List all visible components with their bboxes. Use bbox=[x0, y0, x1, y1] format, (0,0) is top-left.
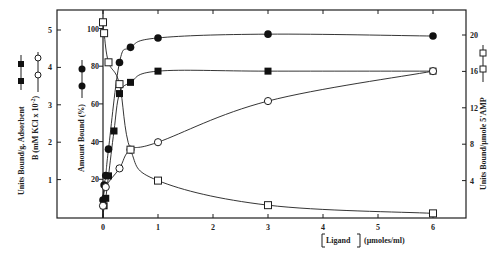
open-circle-marker bbox=[99, 202, 106, 209]
open-square-marker bbox=[430, 210, 437, 217]
legend-filled-circle-icon bbox=[79, 83, 86, 90]
x-axis-title-ligand: Ligand bbox=[326, 236, 351, 245]
legend-filled-square-icon bbox=[18, 61, 24, 67]
filled-circle-marker bbox=[264, 30, 272, 38]
right-tick-label: 12 bbox=[470, 104, 478, 113]
legend-open-square-icon bbox=[480, 50, 486, 56]
right-tick-label: 8 bbox=[470, 140, 474, 149]
inner-tick-label: 40 bbox=[91, 138, 99, 147]
open-square-marker bbox=[116, 81, 123, 88]
filled-circle-marker bbox=[127, 44, 135, 52]
curve-filled-circle bbox=[103, 34, 433, 218]
axis-titles: Units Bound/g. AdsorbentB (mM KCl x 10-2… bbox=[17, 45, 488, 247]
open-circle-marker bbox=[116, 165, 123, 172]
filled-square-marker bbox=[111, 127, 118, 134]
open-circle-marker bbox=[264, 97, 271, 104]
legend-filled-square-icon bbox=[18, 78, 24, 84]
x-tick-label: 4 bbox=[321, 223, 325, 232]
ligand-binding-chart: 0123456123452040608010048121620 Units Bo… bbox=[0, 0, 491, 259]
filled-square-marker bbox=[105, 172, 112, 179]
filled-square-marker bbox=[116, 90, 123, 97]
x-axis-title-units: (µmoles/ml) bbox=[364, 236, 405, 245]
open-square-marker bbox=[155, 177, 162, 184]
inner-tick-label: 60 bbox=[91, 100, 99, 109]
filled-circle-marker bbox=[154, 34, 162, 42]
open-circle-marker bbox=[429, 68, 436, 75]
left-outer-axis-title: Units Bound/g. Adsorbent bbox=[17, 106, 26, 195]
bracket-left bbox=[322, 234, 325, 247]
x-tick-label: 6 bbox=[431, 223, 435, 232]
plot-border bbox=[57, 10, 466, 218]
right-tick-label: 4 bbox=[470, 177, 474, 186]
filled-circle-marker bbox=[105, 145, 113, 153]
legend-filled-circle-icon bbox=[79, 66, 86, 73]
legend-open-circle-icon bbox=[35, 55, 41, 61]
plot-frame bbox=[57, 10, 466, 218]
filled-square-marker bbox=[102, 195, 109, 202]
right-tick-label: 20 bbox=[470, 31, 478, 40]
x-tick-label: 0 bbox=[101, 223, 105, 232]
curve-open-circle bbox=[103, 71, 433, 218]
legend-open-square-icon bbox=[480, 66, 486, 72]
inner-tick-label: 20 bbox=[91, 175, 99, 184]
left-outer-tick-label: 3 bbox=[48, 101, 52, 110]
amount-bound-axis-title: Amount Bound (%) bbox=[77, 104, 86, 172]
x-tick-label: 2 bbox=[211, 223, 215, 232]
x-tick-label: 3 bbox=[266, 223, 270, 232]
filled-circle-marker bbox=[116, 59, 124, 67]
filled-square-marker bbox=[127, 79, 134, 86]
left-outer-tick-label: 5 bbox=[48, 26, 52, 35]
x-tick-label: 1 bbox=[156, 223, 160, 232]
legend-open-circle-icon bbox=[35, 72, 41, 78]
left-outer-tick-label: 1 bbox=[48, 176, 52, 185]
open-circle-marker bbox=[154, 139, 161, 146]
series-markers bbox=[99, 19, 437, 217]
open-square-marker bbox=[265, 202, 272, 209]
inner-tick-label: 80 bbox=[91, 62, 99, 71]
x-tick-label: 5 bbox=[376, 223, 380, 232]
open-square-marker bbox=[127, 146, 134, 153]
series-curves bbox=[103, 22, 433, 218]
left-kcl-axis-title: B (mM KCl x 10-2) bbox=[30, 96, 40, 160]
open-square-marker bbox=[101, 30, 108, 37]
filled-square-marker bbox=[155, 68, 162, 75]
open-square-marker bbox=[100, 19, 107, 26]
right-tick-label: 16 bbox=[470, 67, 478, 76]
axes: 0123456123452040608010048121620 bbox=[48, 10, 478, 232]
inner-tick-label: 100 bbox=[87, 25, 99, 34]
left-outer-tick-label: 2 bbox=[48, 138, 52, 147]
curve-open-square bbox=[103, 22, 433, 213]
filled-circle-marker bbox=[429, 32, 437, 40]
right-axis-title: Units Bound/µmole 5'AMP bbox=[479, 97, 488, 190]
open-circle-marker bbox=[102, 183, 109, 190]
left-outer-tick-label: 4 bbox=[48, 63, 52, 72]
filled-square-marker bbox=[265, 68, 272, 75]
open-square-marker bbox=[105, 59, 112, 66]
bracket-right bbox=[357, 234, 360, 247]
